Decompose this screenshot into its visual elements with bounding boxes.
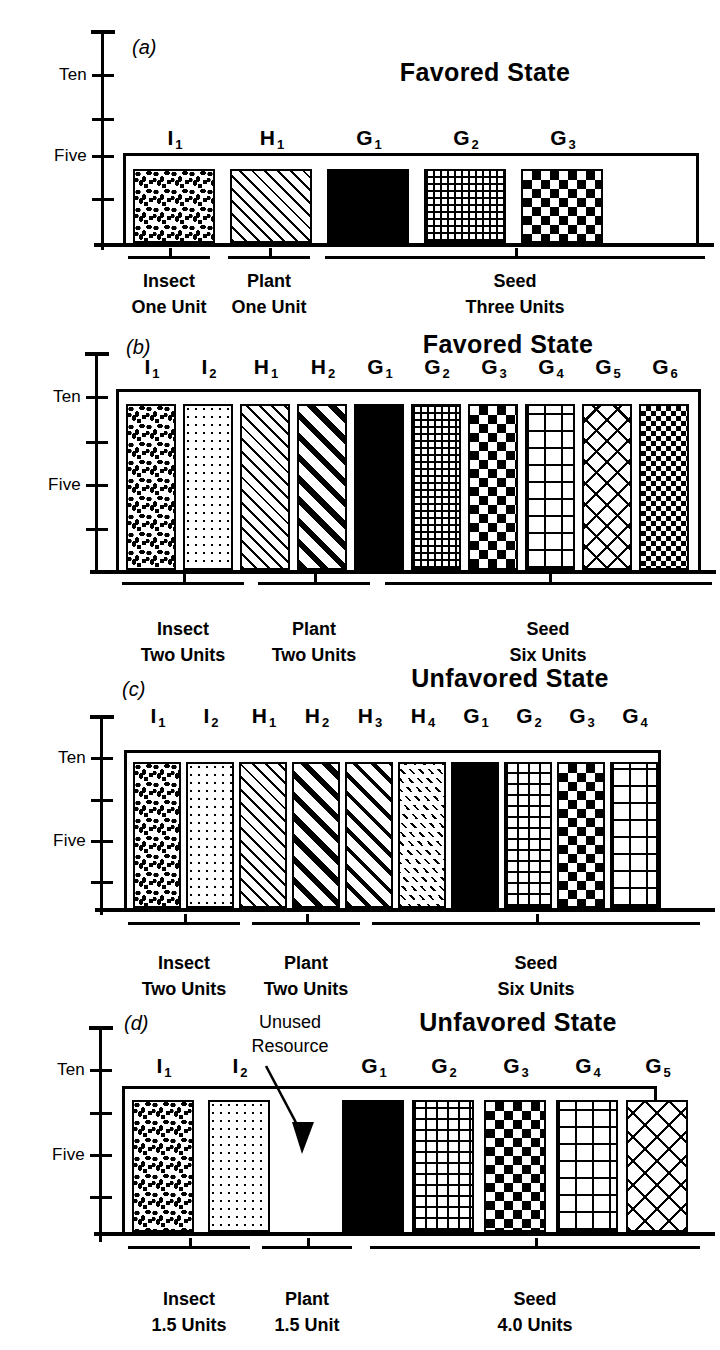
bar-label-g5: G5	[595, 356, 619, 377]
bar-label-text: G	[503, 1054, 519, 1077]
group-caption-title: Insect	[142, 950, 227, 976]
bar-label-g3: G3	[569, 705, 593, 726]
bar-h4	[398, 762, 446, 908]
bar-h1	[230, 169, 312, 243]
baseline-d	[94, 1232, 715, 1236]
y-tick-minor-1	[92, 118, 114, 121]
bar-i1	[133, 169, 215, 243]
y-tick-ten	[91, 757, 113, 760]
y-tick-minor-2	[91, 881, 113, 884]
bar-h3	[345, 762, 393, 908]
bar-label-subscript: 5	[614, 366, 621, 381]
bar-fill-grid-large	[558, 1102, 616, 1230]
bar-label-subscript: 4	[641, 715, 648, 730]
y-tick-ten	[92, 74, 114, 77]
y-label-ten: Ten	[57, 1060, 85, 1080]
group-caption-insect: InsectOne Unit	[132, 268, 207, 320]
bar-i1	[132, 1100, 194, 1232]
bar-label-subscript: 3	[522, 1065, 529, 1080]
bar-g5	[626, 1100, 688, 1232]
bar-fill-grid-med	[506, 764, 550, 906]
bar-fill-dots	[210, 1102, 268, 1230]
bar-fill-grid-large	[612, 764, 656, 906]
bar-label-subscript: 2	[209, 366, 216, 381]
group-tick-insect	[169, 248, 172, 257]
group-tick-plant	[269, 248, 272, 257]
panel-letter-a: (a)	[132, 36, 156, 59]
bar-label-text: I	[167, 126, 173, 149]
bar-label-i2: I2	[201, 356, 214, 377]
bar-label-subscript: 1	[386, 366, 393, 381]
y-label-five: Five	[54, 146, 87, 166]
bar-fill-weave2	[628, 1102, 686, 1230]
y-tick-five	[92, 155, 114, 158]
state-title-b: Favored State	[423, 330, 594, 359]
bar-label-subscript: 2	[535, 715, 542, 730]
bar-g3	[468, 404, 518, 570]
bar-fill-dots	[185, 406, 231, 568]
group-tick-insect	[189, 1238, 192, 1247]
bar-label-text: G	[516, 704, 532, 727]
bar-label-subscript: 4	[594, 1065, 601, 1080]
bar-label-g1: G1	[367, 356, 391, 377]
group-caption-title: Insect	[151, 1286, 226, 1312]
y-axis-spine	[95, 352, 98, 574]
group-caption-title: Seed	[497, 1286, 572, 1312]
state-title-c: Unfavored State	[411, 664, 609, 693]
group-tick-plant	[314, 574, 317, 583]
bar-label-g3: G3	[481, 356, 505, 377]
bar-label-text: H	[411, 704, 426, 727]
bar-label-text: I	[232, 1054, 238, 1077]
panel-d: (d) Unfavored State Unused Resource Ten …	[0, 980, 720, 1350]
state-title-a: Favored State	[400, 58, 571, 87]
bar-i2	[183, 404, 233, 570]
bar-label-text: I	[203, 704, 209, 727]
bar-label-subscript: 2	[472, 137, 479, 152]
bar-g1	[342, 1100, 404, 1232]
bar-fill-diag-thin	[242, 406, 288, 568]
bar-label-subscript: 1	[175, 137, 182, 152]
bar-label-subscript: 3	[500, 366, 507, 381]
bar-fill-check	[559, 764, 603, 906]
group-caption-title: Seed	[465, 268, 564, 294]
bar-g2	[412, 1100, 474, 1232]
bar-label-subscript: 4	[428, 715, 435, 730]
y-tick-minor-2	[92, 198, 114, 201]
y-label-ten: Ten	[59, 65, 87, 85]
panel-c: (c) Unfavored State Ten Five InsectTwo U…	[0, 650, 720, 980]
y-tick-top	[85, 352, 109, 356]
bar-fill-grid-fine	[426, 171, 504, 241]
bar-fill-grid-large	[527, 406, 573, 568]
bar-label-h1: H1	[254, 356, 276, 377]
bar-fill-check	[470, 406, 516, 568]
bar-h1	[240, 404, 290, 570]
group-caption-seed: Seed4.0 Units	[497, 1286, 572, 1338]
bar-label-h1: H1	[260, 127, 282, 148]
bar-label-text: H	[305, 704, 320, 727]
group-caption-title: Plant	[274, 1286, 339, 1312]
baseline-c	[95, 908, 715, 912]
bar-label-subscript: 3	[569, 137, 576, 152]
group-tick-insect	[184, 914, 187, 923]
bar-label-text: G	[481, 355, 497, 378]
y-tick-top	[91, 30, 115, 34]
y-label-five: Five	[48, 475, 81, 495]
bar-label-subscript: 1	[482, 715, 489, 730]
bar-label-i1: I1	[144, 356, 157, 377]
bar-fill-diag-thick	[294, 764, 338, 906]
group-caption-units: 4.0 Units	[497, 1312, 572, 1338]
bar-label-text: G	[431, 1054, 447, 1077]
bar-label-g3: G3	[550, 127, 574, 148]
bar-label-subscript: 2	[322, 715, 329, 730]
bar-label-h2: H2	[311, 356, 333, 377]
y-label-ten: Ten	[53, 387, 81, 407]
panel-a: (a) Favored State Ten Five InsectOne Uni…	[0, 0, 720, 320]
panel-b: (b) Favored State Ten Five InsectTwo Uni…	[0, 320, 720, 650]
y-tick-five	[86, 484, 108, 487]
bar-h2	[292, 762, 340, 908]
bar-fill-speckle	[135, 764, 179, 906]
bar-label-h4: H4	[411, 705, 433, 726]
group-caption-title: Seed	[497, 950, 574, 976]
bar-label-text: I	[144, 355, 150, 378]
group-tick-seed	[535, 1238, 538, 1247]
